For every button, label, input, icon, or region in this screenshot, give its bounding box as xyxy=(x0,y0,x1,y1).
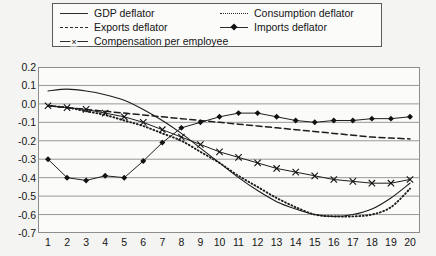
legend-item-exports-deflator: Exports deflator xyxy=(59,22,219,33)
data-point-marker xyxy=(274,114,280,120)
y-tick-label: -0.4 xyxy=(2,173,36,183)
solid-line-icon xyxy=(59,8,89,19)
y-tick-label: -0.3 xyxy=(2,154,36,164)
data-point-marker xyxy=(159,127,165,133)
legend-item-compensation-per-employee: × Compensation per employee xyxy=(59,36,219,47)
y-tick-label: -0.7 xyxy=(2,228,36,238)
data-point-marker xyxy=(83,177,89,183)
legend-row: GDP deflator Consumption deflator xyxy=(59,7,377,20)
plot-area xyxy=(38,67,420,233)
data-point-marker xyxy=(312,119,318,125)
legend-row: × Compensation per employee xyxy=(59,35,377,48)
legend-row: Exports deflator Imports deflator xyxy=(59,21,377,34)
data-point-marker xyxy=(254,160,260,166)
data-point-marker xyxy=(255,110,261,116)
data-point-marker xyxy=(388,116,394,122)
legend-label: Consumption deflator xyxy=(254,8,354,19)
dashed-line-icon xyxy=(59,22,89,33)
y-tick-label: -0.5 xyxy=(2,191,36,201)
y-tick-label: 0.0 xyxy=(2,99,36,109)
diamond-marker-line-icon xyxy=(219,22,249,33)
y-tick-label: -0.2 xyxy=(2,136,36,146)
series-line xyxy=(48,106,410,183)
data-point-marker xyxy=(217,114,223,120)
y-tick-label: -0.1 xyxy=(2,117,36,127)
y-tick-label: 0.1 xyxy=(2,80,36,90)
data-point-marker xyxy=(216,149,222,155)
chart-figure: GDP deflator Consumption deflator Export… xyxy=(0,0,436,256)
data-point-marker xyxy=(369,116,375,122)
data-point-marker xyxy=(178,134,184,140)
chart-legend: GDP deflator Consumption deflator Export… xyxy=(52,3,382,47)
y-tick-label: -0.6 xyxy=(2,210,36,220)
y-axis-tick-labels: 0.20.10.0-0.1-0.2-0.3-0.4-0.5-0.6-0.7 xyxy=(0,67,36,233)
dotted-line-icon xyxy=(219,8,249,19)
data-point-marker xyxy=(407,114,413,120)
x-axis-tick-labels: 1234567891011121314151617181920 xyxy=(38,236,420,252)
y-tick-label: 0.2 xyxy=(2,62,36,72)
legend-item-gdp-deflator: GDP deflator xyxy=(59,8,219,19)
legend-label: GDP deflator xyxy=(94,8,155,19)
chart-canvas xyxy=(38,67,420,233)
legend-item-consumption-deflator: Consumption deflator xyxy=(219,8,354,19)
x-tick-label: 20 xyxy=(399,236,421,248)
data-point-marker xyxy=(197,141,203,147)
data-point-marker xyxy=(236,110,242,116)
legend-label: Compensation per employee xyxy=(94,36,228,47)
legend-label: Imports deflator xyxy=(254,22,327,33)
legend-label: Exports deflator xyxy=(94,22,168,33)
x-marker-line-icon: × xyxy=(59,36,89,47)
series-line xyxy=(48,89,410,216)
legend-item-imports-deflator: Imports deflator xyxy=(219,22,327,33)
